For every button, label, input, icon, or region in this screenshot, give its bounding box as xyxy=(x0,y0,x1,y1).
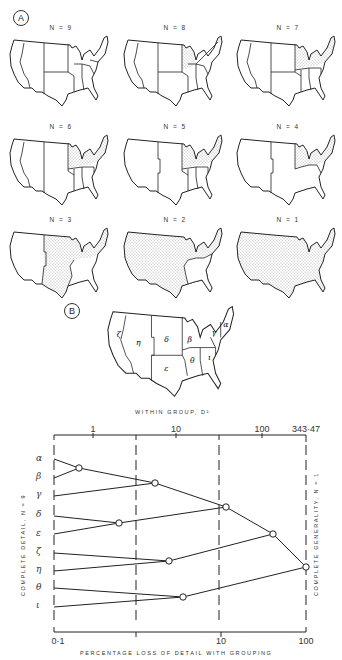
merge-node xyxy=(270,531,276,537)
leaf-beta: β xyxy=(36,471,41,481)
bottom-tick-100: 100 xyxy=(298,636,313,646)
leaf-gamma: γ xyxy=(36,489,41,499)
bottom-axis-label: PERCENTAGE LOSS OF DETAIL WITH GROUPING xyxy=(80,650,272,656)
leaf-eta: η xyxy=(36,564,41,574)
merge-node xyxy=(152,480,158,486)
bottom-tick-10: 10 xyxy=(216,636,226,646)
leaf-iota: ι xyxy=(36,600,40,610)
bottom-tick-0.1: 0·1 xyxy=(51,636,64,646)
leaf-epsilon: ε xyxy=(36,528,41,538)
merge-node xyxy=(166,558,172,564)
leaf-alpha: α xyxy=(36,453,42,463)
left-axis-label: COMPLETE DETAIL, N = 9 xyxy=(20,494,26,596)
merge-node xyxy=(116,520,122,526)
right-axis-label: COMPLETE GENERALITY, N = 1 xyxy=(313,472,319,596)
merge-node xyxy=(223,504,229,510)
dendrogram-chart xyxy=(0,0,342,660)
merge-node xyxy=(76,465,82,471)
leaf-delta: δ xyxy=(36,509,41,519)
leaf-zeta: ζ xyxy=(36,546,41,556)
merge-node xyxy=(303,564,309,570)
merge-node xyxy=(180,594,186,600)
leaf-theta: θ xyxy=(36,582,41,592)
